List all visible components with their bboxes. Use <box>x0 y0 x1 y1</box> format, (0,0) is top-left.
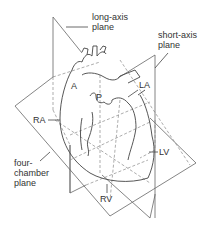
long-axis-plane-hidden-edges <box>53 60 190 185</box>
short-axis-label-line2: plane <box>158 40 197 50</box>
long-axis-label-line1: long-axis <box>92 12 128 22</box>
right-atrium-label: RA <box>33 115 46 125</box>
left-ventricle-label: LV <box>159 147 169 157</box>
four-chamber-plane-hidden-edge <box>53 62 100 77</box>
heart-outline <box>60 46 154 181</box>
leader-short-axis <box>155 53 168 68</box>
short-axis-label-line1: short-axis <box>158 30 197 40</box>
four-chamber-plane-label: four- chamber plane <box>14 158 49 188</box>
pulmonary-artery-label: P <box>96 92 102 102</box>
leader-la <box>128 90 138 97</box>
aorta-label: A <box>71 81 77 91</box>
left-atrium-label: LA <box>139 80 150 90</box>
four-chamber-label-line1: four- <box>14 158 49 168</box>
four-chamber-label-line3: plane <box>14 178 49 188</box>
long-axis-plane-label: long-axis plane <box>92 12 128 32</box>
long-axis-label-line2: plane <box>92 22 128 32</box>
right-ventricle-label: RV <box>100 194 112 204</box>
four-chamber-label-line2: chamber <box>14 168 49 178</box>
short-axis-plane-label: short-axis plane <box>158 30 197 50</box>
